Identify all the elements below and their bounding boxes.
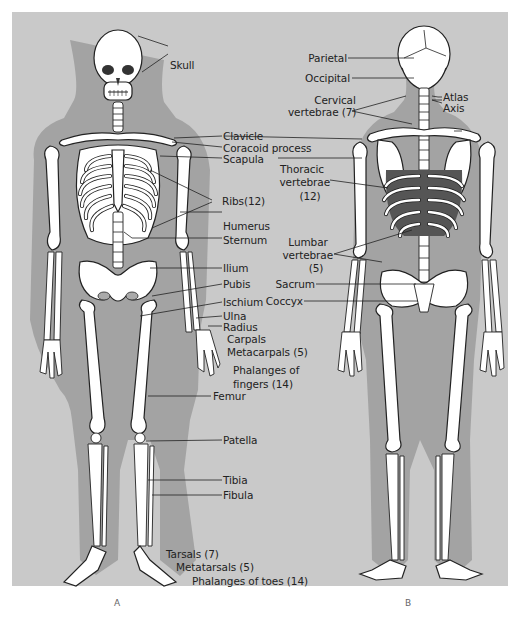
label-phalanges-toes: Phalanges of toes (14) — [192, 575, 308, 587]
caption-view-b: B — [405, 598, 411, 608]
label-carpals: Carpals — [227, 333, 266, 345]
label-occipital: Occipital — [290, 72, 350, 84]
label-radius: Radius — [223, 321, 258, 333]
label-ribs: Ribs(12) — [222, 195, 265, 207]
label-scapula: Scapula — [223, 153, 264, 165]
label-patella: Patella — [223, 434, 257, 446]
label-metacarpals: Metacarpals (5) — [227, 346, 308, 358]
label-tarsals: Tarsals (7) — [166, 548, 219, 560]
label-thoracic-line2: vertebrae — [272, 176, 330, 188]
label-phalanges-fingers-line1: Phalanges of — [233, 364, 299, 376]
label-clavicle: Clavicle — [223, 130, 263, 142]
label-tibia: Tibia — [223, 474, 248, 486]
label-sternum: Sternum — [223, 234, 267, 246]
label-lumbar-line1: Lumbar — [278, 236, 338, 248]
label-thoracic-line3: (12) — [290, 190, 330, 202]
label-cervical-line2: vertebrae (7) — [288, 106, 350, 118]
caption-view-a: A — [114, 598, 120, 608]
label-femur: Femur — [213, 390, 246, 402]
label-lumbar-line3: (5) — [300, 262, 332, 274]
rib-cage-posterior — [384, 170, 464, 236]
label-pubis: Pubis — [223, 278, 250, 290]
label-ilium: Ilium — [223, 262, 248, 274]
label-skull: Skull — [170, 59, 194, 71]
label-ischium: Ischium — [223, 296, 263, 308]
label-metatarsals: Metatarsals (5) — [176, 561, 254, 573]
label-thoracic-line1: Thoracic — [272, 163, 332, 175]
label-parietal: Parietal — [300, 52, 347, 64]
label-lumbar-line2: vertebrae — [272, 249, 333, 261]
label-humerus: Humerus — [223, 220, 270, 232]
label-axis: Axis — [443, 102, 464, 114]
label-coccyx: Coccyx — [260, 295, 303, 307]
label-sacrum: Sacrum — [266, 278, 315, 290]
label-cervical-line1: Cervical — [300, 94, 370, 106]
label-phalanges-fingers-line2: fingers (14) — [233, 378, 293, 390]
label-fibula: Fibula — [223, 489, 253, 501]
